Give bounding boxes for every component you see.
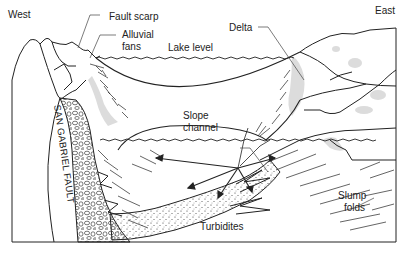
west-label: West (8, 9, 31, 20)
alluvial-fans-label-line2: fans (122, 41, 141, 52)
slump-folds-label-line1: Slump (338, 190, 366, 201)
west-mountains (12, 38, 100, 100)
fault-scarp-label: Fault scarp (109, 11, 158, 22)
lake-basin (96, 52, 300, 150)
slump-folds-label-line2: folds (344, 202, 365, 213)
lake-level-line (96, 57, 294, 59)
lake-level-label: Lake level (168, 42, 213, 53)
east-label: East (375, 5, 395, 16)
turbidites-label: Turbidites (200, 221, 244, 232)
alluvial-fans-label-line1: Alluvial (122, 29, 154, 40)
slope-channel-label-line2: channel (183, 122, 218, 133)
shaded-deposits (88, 46, 386, 151)
slope-channel-label-line1: Slope (183, 110, 209, 121)
delta-label: Delta (229, 22, 252, 33)
